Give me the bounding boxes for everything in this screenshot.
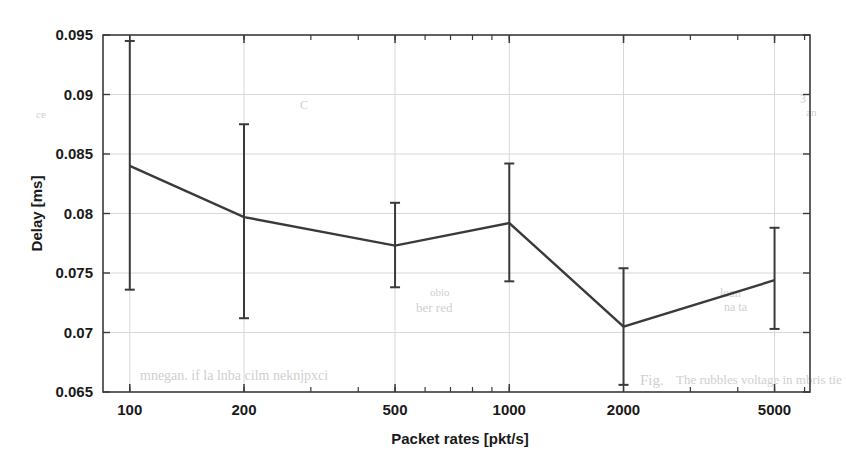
y-axis-tick-label: 0.085 [55,145,93,162]
series-line [130,166,775,327]
error-bar [770,228,780,329]
error-bars [125,41,780,385]
x-axis-tick-label: 5000 [758,401,791,418]
x-axis-tick-label: 1000 [493,401,526,418]
grid-lines [103,35,810,392]
x-axis-title: Packet rates [pkt/s] [391,430,529,447]
y-axis-tick-label: 0.07 [64,324,93,341]
error-bar [125,41,135,290]
y-axis-tick-label: 0.065 [55,383,93,400]
x-axis-tick-label: 2000 [607,401,640,418]
figure-canvas: ber redobioFig.The rubbles voltage in mb… [0,0,846,463]
y-axis-tick-label: 0.09 [64,86,93,103]
y-axis-title: Delay [ms] [28,176,45,252]
x-axis-tick-label: 200 [232,401,257,418]
delay-vs-packet-rate-chart: 0.0950.090.0850.080.0750.070.06510020050… [0,0,846,463]
data-line [130,166,775,327]
y-axis-tick-label: 0.095 [55,26,93,43]
error-bar [239,124,249,318]
x-axis-tick-label: 100 [117,401,142,418]
y-axis-tick-label: 0.08 [64,205,93,222]
x-axis-tick-label: 500 [383,401,408,418]
axis-tick-labels: 0.0950.090.0850.080.0750.070.06510020050… [55,26,791,418]
y-axis-tick-label: 0.075 [55,264,93,281]
